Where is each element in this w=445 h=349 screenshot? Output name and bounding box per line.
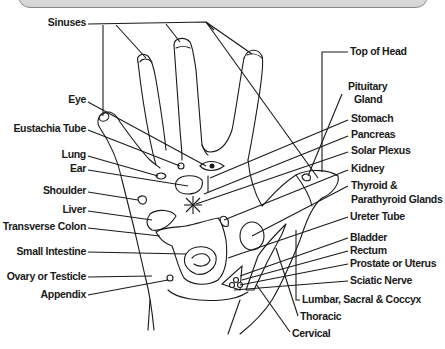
label-ear: Ear xyxy=(70,162,86,174)
label-top-of-head: Top of Head xyxy=(350,45,407,57)
label-thyroid: Thyroid & xyxy=(351,179,398,191)
right-labels: Top of Head Pituitary Gland Stomach Panc… xyxy=(292,45,443,339)
label-prostate-or-uterus: Prostate or Uterus xyxy=(350,257,437,269)
label-bladder: Bladder xyxy=(350,231,387,243)
label-pituitary: Pituitary xyxy=(348,80,388,92)
label-gland: Gland xyxy=(354,93,382,105)
kidney-marker xyxy=(220,216,228,226)
label-eye: Eye xyxy=(68,93,86,105)
label-eustachia-tube: Eustachia Tube xyxy=(13,122,86,134)
label-parathyroid-glands: Parathyroid Glands xyxy=(351,193,443,205)
label-solar-plexus: Solar Plexus xyxy=(351,144,411,156)
label-transverse-colon: Transverse Colon xyxy=(3,220,86,232)
label-stomach: Stomach xyxy=(351,112,393,124)
reflexology-hand-diagram: Sinuses Eye Eustachia Tube Lung Ear Shou… xyxy=(0,0,445,349)
label-ovary-or-testicle: Ovary or Testicle xyxy=(7,270,87,282)
label-ureter-tube: Ureter Tube xyxy=(350,210,405,222)
small-intestine-marker xyxy=(184,247,216,275)
label-appendix: Appendix xyxy=(41,288,87,300)
label-sinuses: Sinuses xyxy=(48,16,87,28)
label-pancreas: Pancreas xyxy=(351,128,396,140)
label-thoracic: Thoracic xyxy=(300,310,342,322)
label-lung: Lung xyxy=(62,148,86,160)
label-liver: Liver xyxy=(62,203,86,215)
left-labels: Sinuses Eye Eustachia Tube Lung Ear Shou… xyxy=(3,16,87,300)
solar-plexus-icon xyxy=(184,196,202,214)
label-sciatic-nerve: Sciatic Nerve xyxy=(350,274,413,286)
pituitary-marker xyxy=(302,174,310,181)
label-shoulder: Shoulder xyxy=(43,184,86,196)
label-kidney: Kidney xyxy=(351,162,385,174)
label-small-intestine: Small Intestine xyxy=(16,245,86,257)
shoulder-marker xyxy=(138,196,146,204)
organ-markers xyxy=(138,162,310,291)
label-rectum: Rectum xyxy=(350,244,387,256)
hand-outline xyxy=(98,38,339,334)
label-cervical: Cervical xyxy=(292,327,331,339)
label-lumbar-sacral-coccyx: Lumbar, Sacral & Coccyx xyxy=(302,293,422,305)
